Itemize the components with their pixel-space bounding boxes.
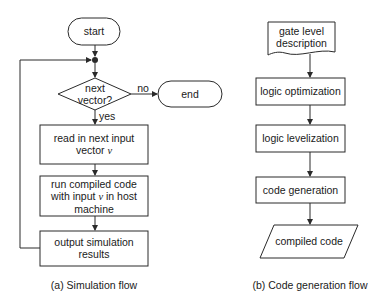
run-code-label: run compiled code with input v in host m… [40, 178, 148, 215]
logic-levelization-label: logic levelization [256, 132, 345, 144]
start-label: start [68, 25, 120, 37]
decision-line-1: next [63, 82, 127, 94]
run-line-2: with input v in host [40, 190, 148, 203]
simulation-flow-caption: (a) Simulation flow [40, 279, 148, 291]
compiled-code-label: compiled code [262, 235, 356, 247]
gate-level-label: gate level description [268, 25, 335, 49]
output-line-1: output simulation [40, 236, 148, 248]
junction-dot [92, 57, 98, 63]
run-line-3: machine [40, 203, 148, 215]
run-line-2-suffix: in host [103, 190, 137, 202]
end-label: end [158, 88, 222, 100]
run-line-1: run compiled code [40, 178, 148, 190]
output-results-label: output simulation results [40, 236, 148, 260]
decision-label: next vector? [63, 82, 127, 106]
gate-level-line-2: description [268, 37, 335, 49]
read-line-1: read in next input [40, 132, 148, 144]
read-line-2: vector v [40, 144, 148, 157]
gate-level-line-1: gate level [268, 25, 335, 37]
logic-optimization-label: logic optimization [256, 85, 345, 97]
code-generation-label: code generation [256, 184, 345, 196]
vector-variable: v [107, 145, 112, 156]
run-line-2-prefix: with input [51, 190, 98, 202]
no-edge-label: no [133, 82, 153, 94]
output-line-2: results [40, 248, 148, 260]
decision-line-2: vector? [63, 94, 127, 106]
code-generation-flow-caption: (b) Code generation flow [240, 279, 380, 291]
yes-edge-label: yes [99, 110, 121, 122]
read-line-2-text: vector [76, 144, 108, 156]
read-input-label: read in next input vector v [40, 132, 148, 157]
